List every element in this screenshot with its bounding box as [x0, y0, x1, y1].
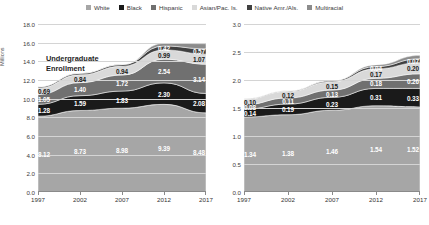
y-axis-tick-label: 12.0 — [23, 77, 35, 84]
data-label: 8.98 — [116, 147, 128, 154]
data-label: 1.07 — [193, 56, 205, 63]
data-label: 0.99 — [158, 51, 170, 58]
data-label: 0.12 — [282, 91, 294, 98]
legend-swatch-icon — [86, 5, 91, 10]
data-label: 8.12 — [38, 151, 50, 158]
data-label: 1.40 — [74, 86, 86, 93]
y-axis-tick-label: 2.0 — [232, 77, 241, 84]
legend-item-white[interactable]: White — [86, 4, 110, 11]
data-label: 2.54 — [158, 68, 170, 75]
legend-item-label: Asian/Pac. Is. — [200, 4, 238, 11]
legend-item-native-amr-als[interactable]: Native Amr./Als. — [247, 4, 299, 11]
data-label: 0.15 — [326, 82, 338, 89]
data-label: 0.10 — [244, 98, 256, 105]
gridline — [38, 136, 206, 137]
gridline — [38, 43, 206, 44]
x-axis-tick-mark — [419, 192, 420, 195]
y-axis-tick-label: 0.5 — [232, 161, 241, 168]
y-axis-tick-label: 0.0 — [232, 189, 241, 196]
y-axis-tick-label: 1.5 — [232, 105, 241, 112]
x-axis-tick-label: 1997 — [237, 196, 251, 203]
data-label: 1.46 — [326, 148, 338, 155]
data-label: 2.08 — [193, 100, 205, 107]
gridline — [38, 24, 206, 25]
x-axis-tick-mark — [38, 192, 39, 195]
legend-item-asian-pac-is[interactable]: Asian/Pac. Is. — [192, 4, 238, 11]
data-label: 9.39 — [158, 145, 170, 152]
legend-item-hispanic[interactable]: Hispanic — [151, 4, 183, 11]
data-label: 0.33 — [407, 94, 419, 101]
y-axis-tick-label: 1.0 — [232, 133, 241, 140]
legend-swatch-icon — [247, 5, 252, 10]
legend-item-label: Native Amr./Als. — [255, 4, 299, 11]
x-axis-tick-label: 2017 — [199, 196, 213, 203]
legend-item-black[interactable]: Black — [119, 4, 142, 11]
data-label: 1.34 — [244, 151, 256, 158]
x-axis-tick-mark — [80, 192, 81, 195]
data-label: 2.30 — [158, 90, 170, 97]
x-axis-tick-mark — [376, 192, 377, 195]
x-axis-tick-label: 2002 — [73, 196, 87, 203]
data-label: 1.54 — [370, 145, 382, 152]
data-label: 1.52 — [407, 146, 419, 153]
data-label: 1.05 — [38, 96, 50, 103]
data-label: 0.04 — [370, 64, 382, 71]
y-axis-tick-label: 14.0 — [23, 58, 35, 65]
data-label: 3.14 — [193, 75, 205, 82]
plot-area-left: 0.02.04.06.08.010.012.014.016.018.019972… — [38, 24, 206, 192]
data-label: 0.69 — [38, 88, 50, 95]
legend-swatch-icon — [119, 5, 124, 10]
plot-area-right: 0.00.51.01.52.02.53.01997200220072012201… — [244, 24, 420, 192]
gridline — [244, 24, 420, 25]
chart-legend: WhiteBlackHispanicAsian/Pac. Is.Native A… — [0, 4, 429, 11]
data-label: 0.20 — [407, 65, 419, 72]
x-axis-tick-label: 2012 — [157, 196, 171, 203]
data-label: 1.59 — [74, 100, 86, 107]
legend-item-label: Multiracial — [315, 4, 343, 11]
x-axis-tick-label: 2007 — [325, 196, 339, 203]
data-label: 0.23 — [326, 100, 338, 107]
gridline — [244, 108, 420, 109]
y-axis-tick-label: 6.0 — [26, 133, 35, 140]
data-label: 8.48 — [193, 149, 205, 156]
data-label: 1.72 — [116, 80, 128, 87]
x-axis-tick-mark — [122, 192, 123, 195]
x-axis-tick-mark — [332, 192, 333, 195]
y-axis-tick-label: 2.5 — [232, 49, 241, 56]
x-axis-tick-label: 2017 — [413, 196, 427, 203]
legend-item-label: White — [94, 4, 110, 11]
data-label: 0.31 — [370, 94, 382, 101]
gridline — [38, 173, 206, 174]
legend-item-multiracial[interactable]: Multiracial — [307, 4, 343, 11]
data-label: 0.07 — [407, 57, 419, 64]
gridline — [38, 155, 206, 156]
y-axis-tick-label: 8.0 — [26, 114, 35, 121]
gridline — [244, 164, 420, 165]
data-label: 0.18 — [370, 80, 382, 87]
y-axis-tick-label: 0.0 — [26, 189, 35, 196]
x-axis-tick-mark — [164, 192, 165, 195]
x-axis-tick-mark — [244, 192, 245, 195]
chart-page: WhiteBlackHispanicAsian/Pac. Is.Native A… — [0, 0, 429, 225]
legend-item-label: Hispanic — [159, 4, 183, 11]
graduate-professional-enrollment-chart: 0.00.51.01.52.02.53.01997200220072012201… — [214, 22, 429, 214]
data-label: 0.14 — [244, 110, 256, 117]
x-axis-tick-mark — [205, 192, 206, 195]
legend-swatch-icon — [307, 5, 312, 10]
data-label: 8.73 — [74, 148, 86, 155]
legend-swatch-icon — [192, 5, 197, 10]
x-axis-tick-label: 2007 — [115, 196, 129, 203]
y-axis-tick-label: 18.0 — [23, 21, 35, 28]
y-axis-tick-label: 2.0 — [26, 170, 35, 177]
data-label: 0.13 — [326, 90, 338, 97]
y-axis-title-left: Millions — [0, 47, 5, 66]
y-axis-tick-label: 16.0 — [23, 39, 35, 46]
data-label: 0.94 — [116, 67, 128, 74]
gridline — [244, 80, 420, 81]
gridline — [38, 117, 206, 118]
x-axis-tick-label: 1997 — [31, 196, 45, 203]
chart-title-left: Undergraduate Enrollment — [46, 54, 99, 73]
data-label: 1.83 — [116, 96, 128, 103]
gridline — [244, 52, 420, 53]
x-axis-tick-label: 2012 — [369, 196, 383, 203]
